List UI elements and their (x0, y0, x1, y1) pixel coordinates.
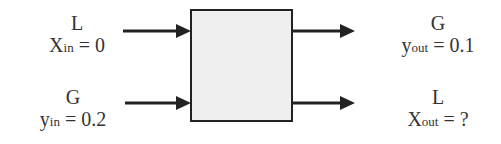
process-unit-box (191, 10, 292, 121)
output-gas-label: G yout = 0.1 (368, 12, 501, 59)
input-gas-label: G yin = 0.2 (3, 86, 143, 133)
stream-composition: Xin = 0 (7, 34, 147, 59)
output-liquid-label: L Xout = ? (368, 86, 501, 133)
arrow-out-gas (292, 24, 355, 38)
stream-name: G (368, 12, 501, 34)
stream-composition: Xout = ? (368, 108, 501, 133)
arrow-out-liquid (292, 96, 355, 110)
stream-name: L (368, 86, 501, 108)
stream-name: G (3, 86, 143, 108)
stream-name: L (7, 12, 147, 34)
stream-composition: yout = 0.1 (368, 34, 501, 59)
stream-composition: yin = 0.2 (3, 108, 143, 133)
input-liquid-label: L Xin = 0 (7, 12, 147, 59)
